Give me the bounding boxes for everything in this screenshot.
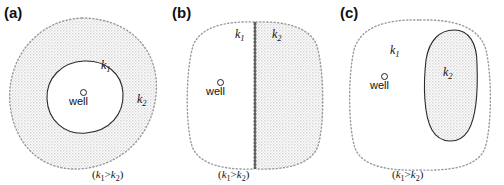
panel-a-well-label: well	[69, 95, 88, 107]
panel-a: (a) k1 k2 well (k1>k2)	[0, 0, 168, 185]
panel-b-well-label: well	[206, 85, 225, 97]
panel-c: (c) k1 k2 well (k1>k2)	[336, 0, 504, 185]
panel-b: (b) k1 k2 well (k1>k2)	[168, 0, 336, 185]
panel-a-k1-label: k1	[101, 58, 111, 74]
panel-a-caption: (k1>k2)	[92, 168, 123, 183]
panel-c-inclusion-region	[424, 30, 477, 141]
panel-b-graphic	[168, 0, 336, 185]
panel-c-k1-label: k1	[390, 43, 400, 59]
panel-b-k1-label: k1	[235, 27, 245, 43]
panel-b-caption: (k1>k2)	[218, 168, 249, 183]
panel-c-k2-label: k2	[443, 65, 453, 81]
panel-b-k2-label: k2	[272, 27, 282, 43]
panel-c-graphic	[336, 0, 504, 185]
panel-c-well-label: well	[370, 79, 389, 91]
permeability-panels-figure: (a) k1 k2 well (k1>k2)	[0, 0, 504, 185]
panel-b-right-region	[256, 22, 323, 169]
panel-a-k2-label: k2	[137, 92, 147, 108]
panel-c-caption: (k1>k2)	[392, 168, 423, 183]
